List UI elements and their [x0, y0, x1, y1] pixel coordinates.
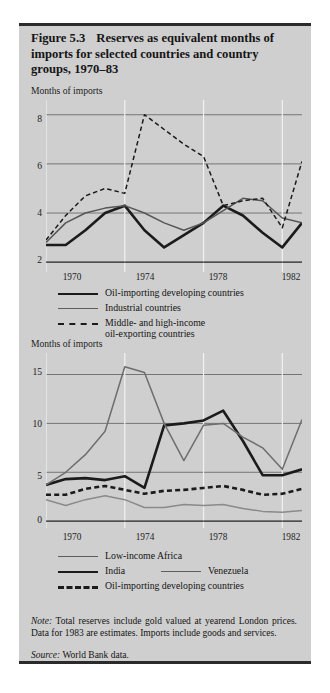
panel-bottom-xtick-1974: 1974	[128, 532, 162, 542]
panel-bottom-xtick-1970: 1970	[55, 532, 89, 542]
panel-top-svg	[46, 100, 302, 272]
panel-top-ytick-6: 6	[28, 160, 42, 171]
legend-swatch-oil-importing-developing	[58, 293, 98, 295]
legend-item-industrial-countries: Industrial countries	[58, 302, 293, 317]
top-rule	[19, 23, 311, 26]
panel-top-xtick-1974: 1974	[128, 272, 162, 282]
panel-bottom-y-axis-label: Months of imports	[31, 338, 102, 349]
panel-top-xtick-1970: 1970	[55, 272, 89, 282]
legend-swatch-industrial-countries	[58, 308, 98, 309]
legend-item-oil-importing-developing-2: Oil-importing developing countries	[58, 580, 293, 595]
note-text: Total reserves include gold valued at ye…	[31, 616, 297, 638]
legend-swatch-india	[58, 571, 98, 573]
panel-top-xtick-1978: 1978	[201, 272, 235, 282]
panel-bottom-legend: Low-income Africa India Venezuela Oil-im…	[58, 550, 293, 595]
panel-bottom-ytick-0: 0	[22, 514, 42, 525]
source-label: Source:	[31, 650, 60, 660]
panel-bottom-xtick-1982: 1982	[274, 532, 308, 542]
panel-bottom-ytick-15: 15	[22, 366, 42, 377]
figure-source: Source: World Bank data.	[31, 650, 297, 662]
panel-top-chart	[46, 100, 302, 272]
note-label: Note:	[31, 616, 52, 626]
legend-item-india-venezuela: India Venezuela	[58, 565, 293, 580]
panel-bottom-svg	[46, 353, 302, 528]
panel-top-xtick-1982: 1982	[274, 272, 308, 282]
legend-label-india: India	[105, 565, 125, 576]
legend-item-oil-importing-developing: Oil-importing developing countries	[58, 287, 293, 302]
panel-top-ytick-2: 2	[28, 254, 42, 265]
panel-bottom-ytick-5: 5	[22, 470, 42, 481]
legend-swatch-oil-exporting-countries	[58, 323, 98, 325]
legend-label-oil-exporting-countries-line2: oil-exporting countries	[105, 328, 195, 339]
legend-label-low-income-africa: Low-income Africa	[105, 550, 182, 561]
legend-swatch-low-income-africa	[58, 556, 98, 557]
legend-label-oil-exporting-countries-line1: Middle- and high-income	[105, 317, 205, 328]
legend-label-oil-importing-developing-2: Oil-importing developing countries	[105, 580, 244, 591]
legend-label-oil-importing-developing: Oil-importing developing countries	[105, 287, 244, 298]
legend-label-venezuela: Venezuela	[208, 565, 248, 576]
source-text: World Bank data.	[60, 650, 129, 660]
legend-label-industrial-countries: Industrial countries	[105, 302, 181, 313]
legend-swatch-venezuela	[161, 571, 201, 572]
figure-note: Note: Total reserves include gold valued…	[31, 616, 297, 639]
panel-bottom-xtick-1978: 1978	[201, 532, 235, 542]
legend-swatch-oil-importing-developing-2	[58, 586, 98, 589]
figure-title: Figure 5.3Reserves as equivalent months …	[31, 31, 293, 78]
figure-page: Figure 5.3Reserves as equivalent months …	[0, 0, 330, 693]
figure-number: Figure 5.3	[31, 31, 85, 45]
legend-item-low-income-africa: Low-income Africa	[58, 550, 293, 565]
panel-bottom-chart	[46, 353, 302, 528]
panel-top-ytick-4: 4	[28, 207, 42, 218]
panel-bottom-ytick-10: 10	[22, 418, 42, 429]
panel-top-y-axis-label: Months of imports	[31, 85, 102, 96]
panel-top-ytick-8: 8	[28, 113, 42, 124]
